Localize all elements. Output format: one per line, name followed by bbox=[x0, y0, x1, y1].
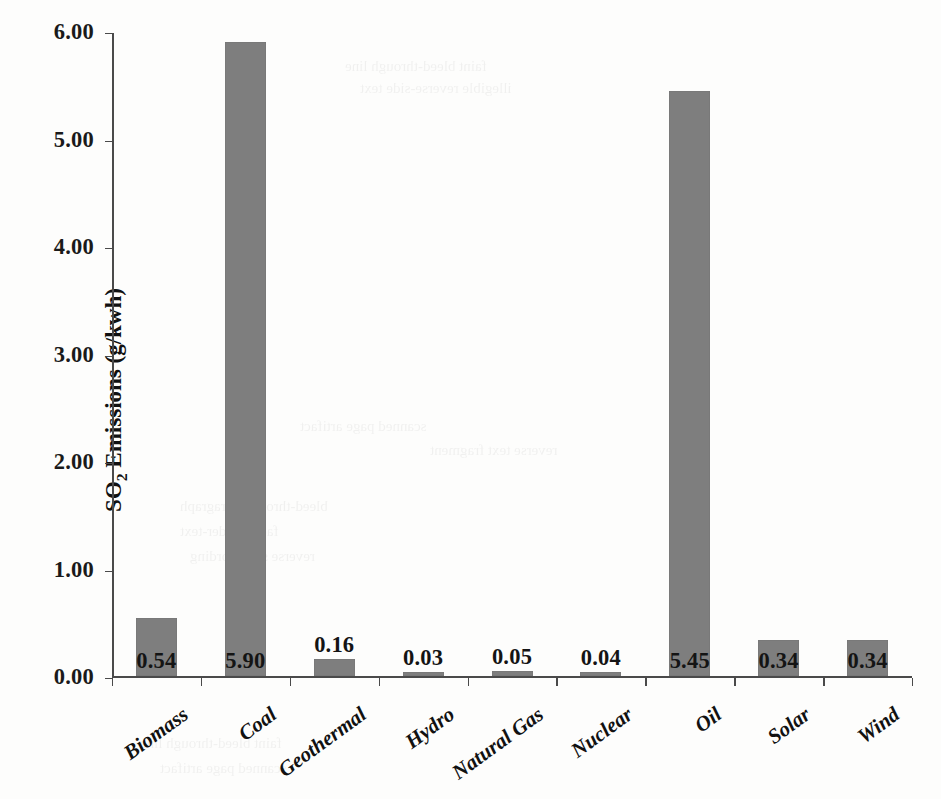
y-axis-tick-label: 3.00 bbox=[54, 342, 94, 368]
x-axis-tick bbox=[201, 678, 202, 686]
x-axis-tick bbox=[468, 678, 469, 686]
bar-value-label: 0.04 bbox=[581, 645, 621, 671]
bar-value-label: 5.90 bbox=[225, 648, 265, 674]
bar-value-label: 0.54 bbox=[136, 648, 176, 674]
y-axis-tick-label: 4.00 bbox=[54, 234, 94, 260]
y-axis-tick: 4.00 bbox=[105, 248, 112, 249]
y-axis-tick: 3.00 bbox=[105, 356, 112, 357]
x-axis-category-label: Geothermal bbox=[273, 702, 371, 783]
y-axis-tick: 1.00 bbox=[105, 571, 112, 572]
y-axis-tick-label: 5.00 bbox=[54, 127, 94, 153]
y-axis-tick-label: 6.00 bbox=[54, 19, 94, 45]
x-axis-tick bbox=[823, 678, 824, 686]
x-axis-tick bbox=[912, 678, 913, 686]
x-axis-category-label: Hydro bbox=[401, 702, 460, 754]
bar[interactable]: 5.45 bbox=[669, 91, 710, 677]
bar[interactable]: 0.34 bbox=[758, 640, 799, 677]
x-axis-category-label: Wind bbox=[852, 702, 904, 749]
y-axis-line bbox=[112, 33, 114, 678]
x-axis-category-label: Solar bbox=[763, 702, 815, 750]
x-axis-category-label: Coal bbox=[234, 702, 282, 746]
y-axis-tick: 2.00 bbox=[105, 463, 112, 464]
bar-value-label: 0.05 bbox=[492, 644, 532, 670]
bar[interactable]: 5.90 bbox=[225, 42, 266, 676]
bar-value-label: 0.03 bbox=[403, 645, 443, 671]
x-axis-tick bbox=[112, 678, 113, 686]
x-axis-category-label: Natural Gas bbox=[448, 702, 549, 785]
bar-value-label: 5.45 bbox=[670, 648, 710, 674]
y-axis-tick: 0.00 bbox=[105, 678, 112, 679]
bar-value-label: 0.34 bbox=[847, 648, 887, 674]
y-axis-tick: 5.00 bbox=[105, 141, 112, 142]
x-axis-category-label: Nuclear bbox=[566, 702, 637, 763]
bar[interactable]: 0.54 bbox=[136, 618, 177, 676]
bar[interactable]: 0.05 bbox=[492, 671, 533, 676]
y-axis-tick-label: 2.00 bbox=[54, 449, 94, 475]
bar[interactable]: 0.03 bbox=[403, 672, 444, 676]
x-axis-line bbox=[112, 676, 912, 678]
plot-area: 0.001.002.003.004.005.006.00 0.545.900.1… bbox=[112, 33, 912, 678]
x-axis-category-label: Oil bbox=[690, 702, 726, 738]
x-axis-category-label: Biomass bbox=[119, 702, 193, 765]
x-axis-tick bbox=[734, 678, 735, 686]
y-axis-tick-label: 1.00 bbox=[54, 557, 94, 583]
x-axis-tick bbox=[290, 678, 291, 686]
x-axis-tick bbox=[645, 678, 646, 686]
x-axis-tick bbox=[556, 678, 557, 686]
x-axis-tick bbox=[379, 678, 380, 686]
bar[interactable]: 0.04 bbox=[580, 672, 621, 676]
bar[interactable]: 0.34 bbox=[847, 640, 888, 677]
y-axis-tick-label: 0.00 bbox=[54, 664, 94, 690]
bar-value-label: 0.16 bbox=[314, 632, 354, 658]
y-axis-tick: 6.00 bbox=[105, 33, 112, 34]
bar-value-label: 0.34 bbox=[759, 648, 799, 674]
chart-page: faint bleed-through line illegible rever… bbox=[0, 0, 941, 799]
ghost-text-line: scanned page artifact bbox=[160, 760, 287, 777]
bar[interactable]: 0.16 bbox=[314, 659, 355, 676]
